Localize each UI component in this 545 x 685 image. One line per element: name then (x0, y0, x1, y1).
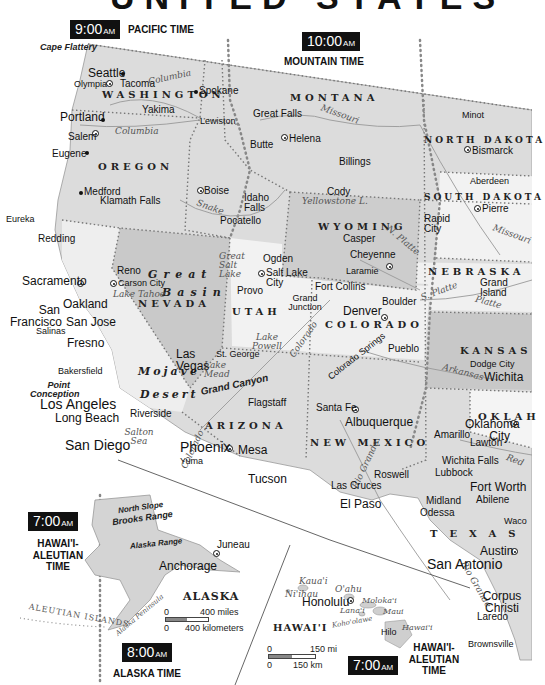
city-las-vegas: Las Vegas (176, 348, 206, 372)
city-roswell: Roswell (374, 470, 409, 480)
city-lewiston: Lewiston (200, 117, 236, 126)
state-utah: UTAH (232, 307, 281, 317)
city-el-paso: El Paso (340, 498, 381, 510)
pacific-ampm: AM (103, 27, 115, 36)
city-mesa: Mesa (238, 444, 267, 456)
city-salt-lake-city: Salt Lake City (266, 268, 311, 288)
city-phoenix: Phoenix (180, 440, 231, 454)
yellowstone-lake: Yellowstone L. (302, 197, 368, 206)
island-hawaii: Hawai'i (402, 624, 433, 632)
alaska-scale-bar (165, 617, 209, 622)
city-st-george: St. George (216, 350, 260, 359)
city-sacramento: Sacramento (22, 275, 87, 287)
city-denver: Denver (343, 305, 382, 317)
city-san-francisco: San Francisco (10, 304, 60, 328)
city-yuma: Yuma (180, 457, 203, 466)
city-ogden: Ogden (263, 254, 293, 264)
city-eugene: Eugene (52, 149, 86, 159)
city-yakima: Yakima (142, 105, 175, 115)
state-oregon: OREGON (98, 162, 173, 172)
city-minot: Minot (462, 111, 484, 120)
great-basin-basin: Basin (162, 287, 227, 298)
capital-icon (464, 146, 471, 153)
city-santa-fe: Santa Fe (316, 403, 357, 413)
island-kauai: Kaua'i (299, 577, 328, 586)
alaska-scale-km-zero: 0 (164, 623, 169, 633)
hawaii-aleutian-time-label-right: HAWAI'I- ALEUTIAN TIME (404, 642, 464, 677)
state-texas: TEXAS (430, 529, 527, 539)
city-wichita: Wichita (484, 371, 523, 383)
city-grand-junction: Grand Junction (285, 294, 325, 312)
alaska-time-label: ALASKA TIME (113, 668, 181, 680)
city-klamath-falls: Klamath Falls (100, 196, 161, 206)
city-odessa: Odessa (420, 508, 454, 518)
city-albuquerque: Albuquerque (345, 416, 413, 428)
city-cody: Cody (327, 187, 350, 197)
city-san-jose: San Jose (66, 316, 116, 328)
capital-icon (106, 80, 113, 87)
island-maui: Maui (383, 608, 404, 616)
pacific-time-box: 9:00AM (70, 20, 120, 39)
city-anchorage: Anchorage (159, 560, 217, 572)
city-reno: Reno (117, 266, 141, 276)
city-redding: Redding (38, 234, 75, 244)
hawaii-aleutian-ampm-left: AM (61, 519, 73, 528)
state-nevada: NEVADA (138, 299, 210, 309)
capital-icon (381, 314, 388, 321)
hawaii-scale-mi-zero: 0 (267, 644, 272, 654)
city-waco: Waco (504, 517, 527, 526)
city-tucson: Tucson (248, 473, 287, 485)
capital-icon (386, 263, 393, 270)
hawaii-aleutian-time-right: 7:00 (353, 657, 380, 673)
hawaii-aleutian-time-box-left: 7:00AM (28, 512, 78, 531)
state-south-dakota: SOUTH DAKOTA (424, 193, 544, 202)
city-hilo: Hilo (381, 628, 397, 637)
mountain-time-label: MOUNTAIN TIME (284, 56, 364, 68)
city-laredo: Laredo (477, 612, 508, 622)
city-tacoma: Tacoma (120, 79, 155, 89)
city-pocatello: Pocatello (220, 216, 261, 226)
columbia-river-south: Columbia (115, 127, 159, 136)
mojave-desert: Desert (140, 389, 199, 400)
hawaii-scale-km-zero: 0 (267, 660, 272, 670)
capital-icon (258, 270, 265, 277)
island-lanai: Lana'i (340, 607, 365, 615)
city-billings: Billings (339, 157, 371, 167)
city-casper: Casper (343, 234, 375, 244)
hawaii-aleutian-time-label-left: HAWAI'I- ALEUTIAN TIME (28, 538, 88, 573)
state-montana: MONTANA (290, 93, 378, 103)
city-carson-city: Carson City (118, 279, 165, 288)
state-kansas: KANSAS (460, 346, 531, 356)
city-rapid-city: Rapid City (424, 214, 454, 234)
city-eureka: Eureka (6, 215, 35, 224)
pacific-time: 9:00 (75, 21, 102, 37)
city-fresno: Fresno (67, 337, 104, 349)
alaska-scale-miles: 400 miles (200, 607, 239, 617)
state-colorado: COLORADO (325, 320, 423, 330)
city-dot (194, 90, 198, 94)
city-helena: Helena (289, 134, 321, 144)
lake-tahoe: Lake Tahoe (113, 290, 165, 299)
capital-icon (197, 187, 204, 194)
alaska-ampm: AM (155, 650, 167, 659)
city-las-cruces: Las Cruces (331, 481, 382, 491)
hawaii-scale-bar (268, 654, 316, 659)
city-provo: Provo (237, 286, 263, 296)
city-lubbock: Lubbock (435, 468, 473, 478)
city-salinas: Salinas (36, 327, 66, 336)
state-hawaii: HAWAI'I (273, 623, 327, 633)
city-flagstaff: Flagstaff (248, 398, 286, 408)
hawaii-scale-km: 150 km (293, 660, 323, 670)
capital-icon (474, 205, 481, 212)
capital-icon (281, 134, 288, 141)
mountain-time: 10:00 (307, 33, 342, 49)
city-butte: Butte (250, 140, 273, 150)
city-great-falls: Great Falls (253, 109, 302, 119)
hawaii-scale-mi: 150 mi (310, 644, 337, 654)
city-midland: Midland (426, 496, 461, 506)
city-pierre: Pierre (482, 204, 509, 214)
city-san-antonio: San Antonio (427, 557, 503, 571)
island-molokai: Moloka'i (362, 597, 397, 605)
city-wichita-falls: Wichita Falls (442, 456, 499, 466)
